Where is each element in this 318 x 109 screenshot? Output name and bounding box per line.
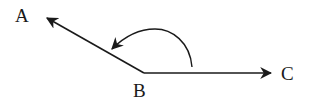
- angle-diagram: A B C: [0, 0, 318, 109]
- label-c: C: [281, 63, 294, 84]
- label-a: A: [15, 5, 29, 26]
- ray-ba: [47, 18, 144, 73]
- label-b: B: [133, 80, 146, 101]
